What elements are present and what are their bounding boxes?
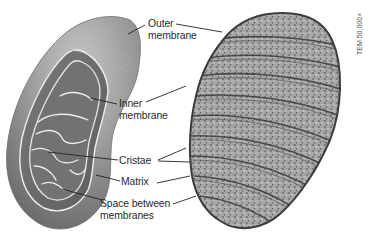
label-space-between-membranes: Space between membranes bbox=[100, 197, 170, 221]
label-outer-line2: membrane bbox=[148, 29, 197, 41]
label-outer-line1: Outer bbox=[148, 17, 197, 29]
tem-micrograph bbox=[190, 13, 344, 228]
label-matrix: Matrix bbox=[121, 175, 149, 187]
label-outer-membrane: Outer membrane bbox=[148, 17, 197, 41]
label-cristae: Cristae bbox=[119, 154, 151, 166]
label-space-line2: membranes bbox=[100, 209, 170, 221]
label-inner-line1: Inner bbox=[119, 97, 168, 109]
label-inner-membrane: Inner membrane bbox=[119, 97, 168, 121]
label-inner-line2: membrane bbox=[119, 109, 168, 121]
mitochondrion-diagram: Outer membrane Inner membrane Cristae Ma… bbox=[0, 0, 372, 239]
micrograph-magnification-caption: TEM 50,000× bbox=[356, 13, 363, 55]
label-space-line1: Space between bbox=[100, 197, 170, 209]
